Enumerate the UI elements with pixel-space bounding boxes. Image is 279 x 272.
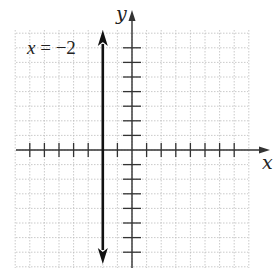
coordinate-plane: y x x = −2 bbox=[0, 0, 279, 272]
y-axis-label: y bbox=[115, 2, 127, 24]
equation-rest: = −2 bbox=[35, 37, 75, 58]
equation-label: x = −2 bbox=[26, 37, 76, 58]
x-axis-label: x bbox=[262, 151, 273, 173]
plotted-line bbox=[98, 30, 108, 264]
